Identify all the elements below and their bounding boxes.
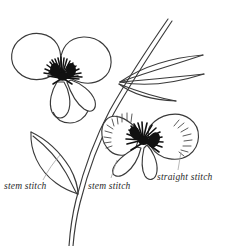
leader-line-left [43,155,60,180]
pansy-line-drawing [0,0,226,246]
label-stem-stitch-left: stem stitch [4,181,47,191]
embroidery-pattern-illustration: stem stitch stem stitch straight stitch [0,0,226,246]
label-stem-stitch-middle: stem stitch [88,181,131,191]
upper-leaves [119,55,204,101]
label-straight-stitch: straight stitch [157,172,213,182]
